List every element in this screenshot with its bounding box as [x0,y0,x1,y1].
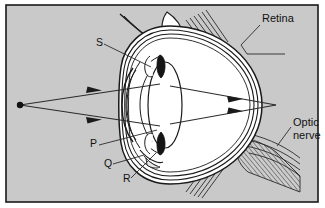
label-p: P [90,137,97,149]
label-s: S [96,36,103,48]
eye-diagram-figure: Retina Optic nerve S P Q R [0,0,325,208]
label-r: R [123,172,131,184]
label-retina: Retina [262,12,295,24]
light-source-point [17,102,23,108]
label-optic-nerve-line2: nerve [293,129,321,141]
label-optic-nerve-line1: Optic [293,116,319,128]
label-q: Q [104,157,112,169]
eye-diagram-svg: Retina Optic nerve S P Q R [0,0,325,208]
